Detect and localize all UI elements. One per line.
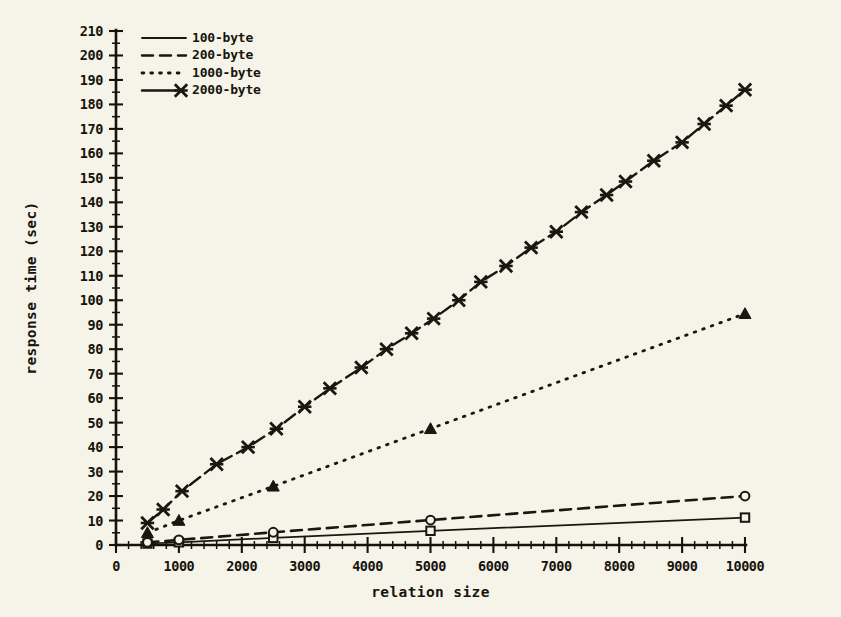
y-tick-label: 180 xyxy=(80,96,103,112)
y-tick-label: 90 xyxy=(88,317,104,333)
x-tick-label: 0 xyxy=(112,558,120,574)
marker-triangle xyxy=(739,308,751,319)
series-line xyxy=(147,496,745,542)
y-tick-label: 110 xyxy=(80,268,103,284)
series-line xyxy=(147,314,745,533)
legend-item-200-byte: 200-byte xyxy=(142,47,253,62)
legend-label: 100-byte xyxy=(192,30,253,45)
x-tick-label: 10000 xyxy=(726,558,765,574)
x-tick-label: 1000 xyxy=(163,558,194,574)
y-tick-label: 150 xyxy=(80,170,103,186)
y-tick-label: 130 xyxy=(80,219,103,235)
legend-label: 200-byte xyxy=(192,47,253,62)
x-tick-label: 6000 xyxy=(478,558,509,574)
y-tick-label: 10 xyxy=(88,513,104,529)
y-tick-label: 120 xyxy=(80,243,103,259)
series-line xyxy=(147,518,745,544)
marker-circle xyxy=(741,492,750,501)
y-tick-label: 190 xyxy=(80,72,103,88)
y-tick-label: 60 xyxy=(88,390,104,406)
y-axis-label: response time (sec) xyxy=(23,201,39,374)
x-tick-label: 2000 xyxy=(226,558,257,574)
x-tick-label: 4000 xyxy=(352,558,383,574)
legend-item-100-byte: 100-byte xyxy=(142,30,253,45)
legend-item-1000-byte: 1000-byte xyxy=(142,65,261,80)
y-tick-label: 170 xyxy=(80,121,103,137)
marker-circle xyxy=(269,528,278,537)
y-tick-label: 40 xyxy=(88,439,104,455)
legend-label: 1000-byte xyxy=(192,65,261,80)
legend-label: 2000-byte xyxy=(192,82,261,97)
series-2000-byte xyxy=(141,84,752,530)
x-tick-label: 3000 xyxy=(289,558,320,574)
y-tick-label: 140 xyxy=(80,194,103,210)
x-axis-label: relation size xyxy=(371,584,490,600)
y-tick-label: 50 xyxy=(88,415,104,431)
y-tick-label: 200 xyxy=(80,47,103,63)
chart-legend: 100-byte200-byte1000-byte2000-byte xyxy=(142,30,261,98)
figure-container: 0102030405060708090100110120130140150160… xyxy=(0,0,841,617)
marker-square xyxy=(426,527,434,535)
data-series-group xyxy=(141,84,752,548)
y-tick-label: 100 xyxy=(80,292,103,308)
x-tick-label: 9000 xyxy=(667,558,698,574)
legend-item-2000-byte: 2000-byte xyxy=(142,82,261,97)
marker-circle xyxy=(426,516,435,525)
y-tick-label: 30 xyxy=(88,464,104,480)
y-tick-label: 70 xyxy=(88,366,104,382)
chart-canvas: 0102030405060708090100110120130140150160… xyxy=(0,0,841,617)
y-tick-label: 160 xyxy=(80,145,103,161)
x-tick-label: 5000 xyxy=(415,558,446,574)
marker-circle xyxy=(175,535,184,544)
y-tick-label: 0 xyxy=(95,537,103,553)
y-tick-label: 80 xyxy=(88,341,104,357)
series-line xyxy=(147,90,745,523)
x-tick-label: 8000 xyxy=(604,558,635,574)
marker-square xyxy=(741,513,749,521)
y-tick-label: 20 xyxy=(88,488,104,504)
marker-circle xyxy=(143,538,152,547)
x-tick-label: 7000 xyxy=(541,558,572,574)
x-axis-ticks: 0100020003000400050006000700080009000100… xyxy=(112,537,764,574)
y-tick-label: 210 xyxy=(80,23,103,39)
marker-triangle xyxy=(425,423,437,434)
